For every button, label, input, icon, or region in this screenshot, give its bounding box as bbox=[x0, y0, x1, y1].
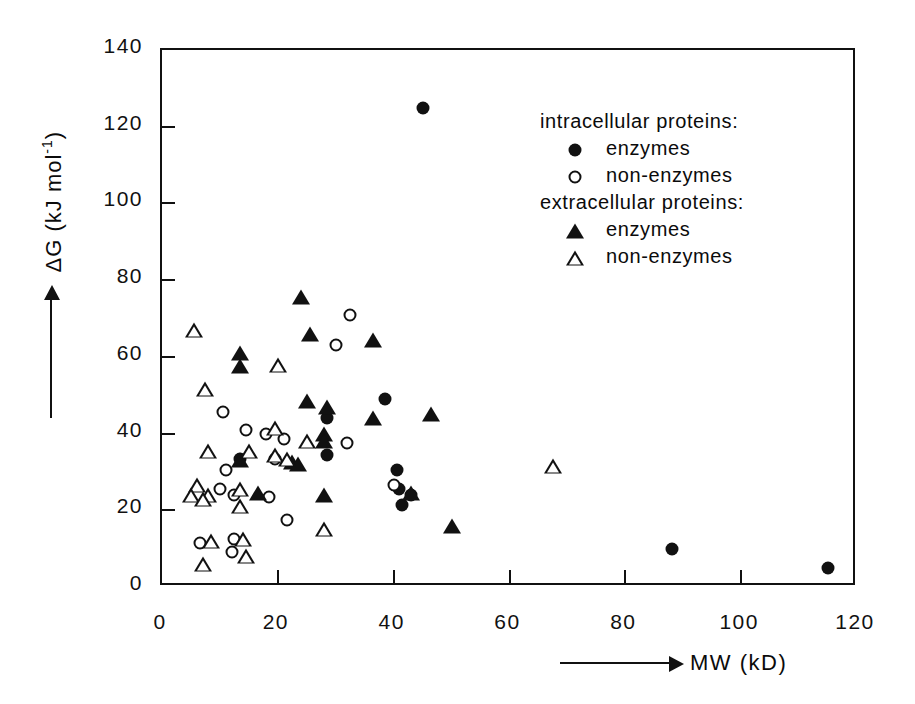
legend-label-extracellular-enzymes: enzymes bbox=[606, 216, 690, 243]
x-tick-label-100: 100 bbox=[689, 610, 789, 634]
x-axis-title: MW (kD) bbox=[690, 650, 787, 676]
filled-triangle-icon bbox=[566, 223, 584, 238]
x-tick-100 bbox=[740, 570, 742, 583]
data-point bbox=[298, 434, 316, 449]
data-point bbox=[234, 532, 252, 547]
data-point bbox=[329, 339, 342, 352]
data-point bbox=[280, 513, 293, 526]
data-point bbox=[318, 399, 336, 414]
y-tick-80 bbox=[162, 279, 175, 281]
legend: intracellular proteins: enzymes non-enzy… bbox=[540, 108, 744, 270]
data-point bbox=[269, 357, 287, 372]
data-point bbox=[249, 486, 267, 501]
data-point bbox=[185, 323, 203, 338]
y-tick-label-120: 120 bbox=[28, 111, 143, 135]
data-point bbox=[194, 491, 212, 506]
data-point bbox=[443, 518, 461, 533]
data-point bbox=[378, 393, 391, 406]
filled-circle-icon bbox=[569, 143, 582, 156]
data-point bbox=[237, 549, 255, 564]
scatter-plot-figure: ΔG (kJ mol-1) MW (kD) 020406080100120140… bbox=[0, 0, 915, 704]
y-tick-60 bbox=[162, 356, 175, 358]
data-point bbox=[231, 359, 249, 374]
y-tick-40 bbox=[162, 433, 175, 435]
data-point bbox=[544, 459, 562, 474]
legend-item-intracellular-non-enzymes: non-enzymes bbox=[562, 162, 744, 189]
x-axis-arrow-icon bbox=[560, 662, 670, 664]
x-tick-label-80: 80 bbox=[573, 610, 673, 634]
open-triangle-icon bbox=[566, 250, 584, 265]
data-point bbox=[199, 443, 217, 458]
data-point bbox=[315, 434, 333, 449]
data-point bbox=[364, 411, 382, 426]
legend-item-intracellular-enzymes: enzymes bbox=[562, 135, 744, 162]
legend-item-extracellular-non-enzymes: non-enzymes bbox=[562, 243, 744, 270]
x-tick-40 bbox=[393, 570, 395, 583]
x-tick-80 bbox=[624, 570, 626, 583]
legend-item-extracellular-enzymes: enzymes bbox=[562, 216, 744, 243]
data-point bbox=[202, 533, 220, 548]
data-point bbox=[194, 556, 212, 571]
data-point bbox=[416, 101, 429, 114]
data-point bbox=[387, 479, 400, 492]
legend-swatch-filled-triangle bbox=[562, 220, 606, 240]
data-point bbox=[239, 423, 252, 436]
open-circle-icon bbox=[569, 170, 582, 183]
data-point bbox=[266, 420, 284, 435]
data-point bbox=[292, 290, 310, 305]
data-point bbox=[231, 482, 249, 497]
legend-label-intracellular-enzymes: enzymes bbox=[606, 135, 690, 162]
data-point bbox=[665, 543, 678, 556]
data-point bbox=[822, 561, 835, 574]
legend-swatch-open-triangle bbox=[562, 247, 606, 267]
data-point bbox=[315, 487, 333, 502]
legend-heading-intracellular: intracellular proteins: bbox=[540, 108, 744, 135]
y-tick-label-0: 0 bbox=[28, 571, 143, 595]
legend-label-intracellular-non-enzymes: non-enzymes bbox=[606, 162, 733, 189]
legend-swatch-filled-circle bbox=[562, 139, 606, 159]
y-tick-label-60: 60 bbox=[28, 341, 143, 365]
x-tick-60 bbox=[509, 570, 511, 583]
data-point bbox=[402, 486, 420, 501]
plot-frame bbox=[160, 48, 855, 585]
plot-area bbox=[162, 50, 853, 583]
y-tick-label-140: 140 bbox=[28, 34, 143, 58]
y-tick-label-40: 40 bbox=[28, 418, 143, 442]
x-tick-label-120: 120 bbox=[805, 610, 905, 634]
x-tick-label-20: 20 bbox=[226, 610, 326, 634]
data-point bbox=[196, 382, 214, 397]
y-tick-100 bbox=[162, 202, 175, 204]
data-point bbox=[231, 499, 249, 514]
x-tick-label-0: 0 bbox=[110, 610, 210, 634]
y-tick-20 bbox=[162, 509, 175, 511]
x-tick-label-40: 40 bbox=[342, 610, 442, 634]
data-point bbox=[298, 393, 316, 408]
y-tick-label-80: 80 bbox=[28, 264, 143, 288]
data-point bbox=[240, 443, 258, 458]
data-point bbox=[341, 437, 354, 450]
data-point bbox=[364, 332, 382, 347]
data-point bbox=[216, 406, 229, 419]
legend-label-extracellular-non-enzymes: non-enzymes bbox=[606, 243, 733, 270]
data-point bbox=[344, 308, 357, 321]
data-point bbox=[278, 451, 296, 466]
data-point bbox=[422, 407, 440, 422]
x-tick-label-60: 60 bbox=[458, 610, 558, 634]
y-axis-title-exponent: -1 bbox=[39, 139, 55, 153]
data-point bbox=[390, 464, 403, 477]
y-tick-label-100: 100 bbox=[28, 187, 143, 211]
y-tick-label-20: 20 bbox=[28, 494, 143, 518]
data-point bbox=[301, 326, 319, 341]
legend-heading-extracellular: extracellular proteins: bbox=[540, 189, 744, 216]
y-tick-120 bbox=[162, 126, 175, 128]
data-point bbox=[315, 522, 333, 537]
x-tick-20 bbox=[277, 570, 279, 583]
legend-swatch-open-circle bbox=[562, 166, 606, 186]
data-point bbox=[321, 448, 334, 461]
